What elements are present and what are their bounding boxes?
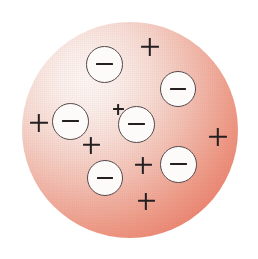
plus-bar-vertical	[142, 157, 144, 174]
minus-icon	[97, 177, 113, 179]
plus-charge-label: +	[30, 114, 31, 115]
electron-left: −	[52, 103, 89, 140]
electron-center: −	[118, 106, 155, 143]
plus-mid-left-icon: +	[83, 137, 100, 154]
electron-top: −	[86, 46, 123, 83]
plus-charge-label: +	[113, 104, 114, 105]
plus-charge-label: +	[141, 38, 142, 39]
plus-charge-label: +	[135, 157, 136, 158]
plus-bottom-icon: +	[138, 193, 155, 210]
electron-lower-right: −	[160, 146, 197, 183]
minus-icon	[96, 63, 113, 65]
electron-upper-right: −	[160, 71, 196, 107]
plus-mid-bottom-icon: +	[135, 157, 152, 174]
plus-charge-label: +	[138, 193, 139, 194]
minus-icon	[170, 88, 186, 90]
plus-bar-vertical	[117, 104, 119, 115]
minus-icon	[128, 123, 145, 125]
electron-lower-left: −	[87, 160, 123, 196]
plus-right-icon: +	[209, 128, 227, 146]
plus-charge-label: +	[83, 137, 84, 138]
minus-icon	[62, 120, 79, 122]
minus-icon	[170, 163, 187, 165]
plus-bar-vertical	[145, 193, 147, 210]
plus-left-icon: +	[30, 114, 48, 132]
atomic-model-diagram: Thomson plum pudding atomic model A larg…	[0, 0, 258, 259]
plus-charge-label: +	[209, 128, 210, 129]
plus-top-icon: +	[141, 38, 159, 56]
plus-bar-vertical	[90, 137, 92, 154]
